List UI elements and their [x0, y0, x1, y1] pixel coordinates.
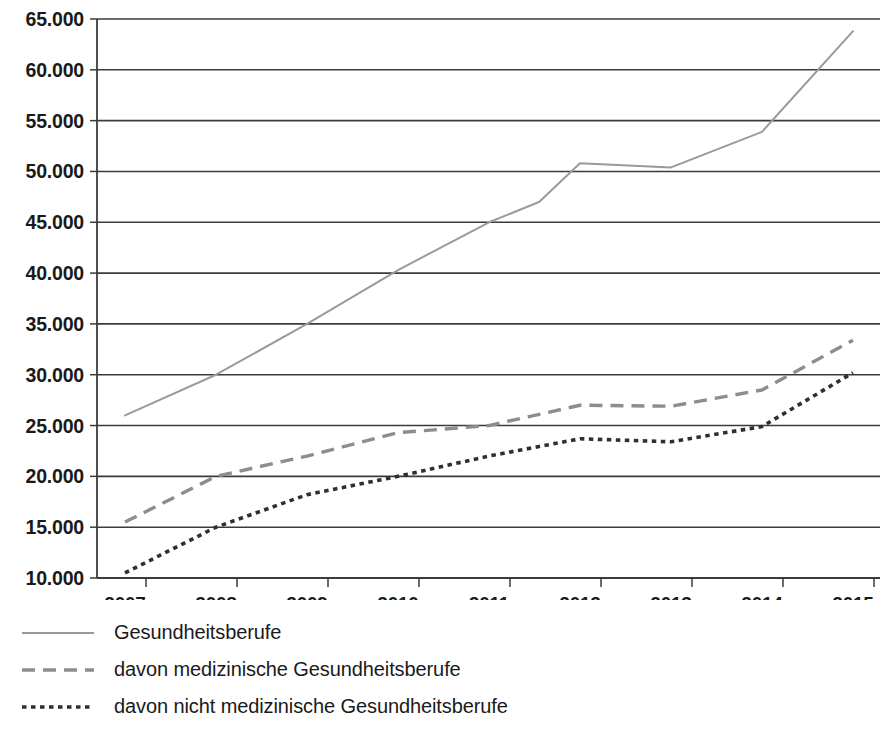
- legend-swatch-dotted-line-icon: [22, 700, 94, 714]
- gridlines: [97, 19, 880, 578]
- series-line-gesundheitsberufe: [125, 31, 853, 415]
- y-tick-label: 65.000: [26, 8, 85, 30]
- legend-label-nicht-medizinische-gesundheitsberufe: davon nicht medizinische Gesundheitsberu…: [114, 695, 508, 718]
- y-tick-label: 45.000: [26, 211, 85, 233]
- x-tick-label: 2011: [469, 593, 510, 600]
- x-tick-label: 2015: [832, 593, 874, 600]
- line-chart: 10.00015.00020.00025.00030.00035.00040.0…: [0, 0, 885, 600]
- x-tick-label: 2008: [195, 593, 236, 600]
- y-tick-label: 35.000: [26, 313, 85, 335]
- data-series-group: [125, 31, 853, 573]
- y-axis-tick-labels: 10.00015.00020.00025.00030.00035.00040.0…: [26, 8, 85, 589]
- y-tick-label: 55.000: [26, 110, 85, 132]
- chart-legend: Gesundheitsberufe davon medizinische Ges…: [0, 600, 885, 730]
- x-tick-label: 2009: [286, 593, 327, 600]
- x-tick-label: 2014: [741, 593, 783, 600]
- legend-item-gesundheitsberufe: Gesundheitsberufe: [0, 614, 885, 651]
- chart-page: 10.00015.00020.00025.00030.00035.00040.0…: [0, 0, 885, 730]
- y-tick-label: 30.000: [26, 364, 85, 386]
- y-tick-label: 15.000: [26, 516, 85, 538]
- legend-label-gesundheitsberufe: Gesundheitsberufe: [114, 621, 281, 644]
- x-axis-tick-marks: [146, 578, 874, 587]
- series-line-nicht-medizinische-gesundheitsberufe: [125, 373, 853, 573]
- y-tick-label: 25.000: [26, 415, 85, 437]
- x-tick-label: 2010: [377, 593, 418, 600]
- legend-swatch-dashed-line-icon: [22, 663, 94, 677]
- legend-swatch-solid-line-icon: [22, 626, 94, 640]
- x-tick-label: 2012: [559, 593, 600, 600]
- y-tick-label: 10.000: [26, 567, 85, 589]
- legend-item-medizinische-gesundheitsberufe: davon medizinische Gesundheitsberufe: [0, 651, 885, 688]
- plot-area: 10.00015.00020.00025.00030.00035.00040.0…: [0, 0, 885, 600]
- legend-label-medizinische-gesundheitsberufe: davon medizinische Gesundheitsberufe: [114, 658, 461, 681]
- y-axis-tick-marks: [90, 19, 97, 578]
- y-tick-label: 40.000: [26, 262, 85, 284]
- y-tick-label: 50.000: [26, 160, 85, 182]
- legend-item-nicht-medizinische-gesundheitsberufe: davon nicht medizinische Gesundheitsberu…: [0, 688, 885, 725]
- x-axis-tick-labels: 200720082009201020112012201320142015: [104, 593, 874, 600]
- x-tick-label: 2007: [104, 593, 145, 600]
- y-tick-label: 60.000: [26, 59, 85, 81]
- y-tick-label: 20.000: [26, 465, 85, 487]
- x-tick-label: 2013: [650, 593, 691, 600]
